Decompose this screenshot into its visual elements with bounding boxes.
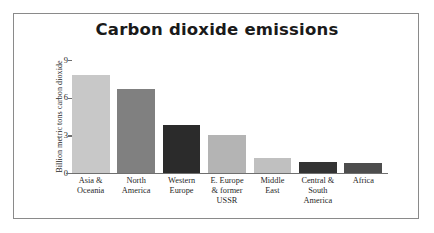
x-tick-label: E. Europe& formerUSSR	[204, 176, 249, 207]
x-tick-label-line: America	[295, 196, 340, 206]
bar-africa[interactable]	[344, 163, 382, 173]
bar-e-europe-former-ussr[interactable]	[208, 135, 246, 173]
bar-asia-oceania[interactable]	[72, 75, 110, 173]
x-tick-label-line: Asia &	[68, 176, 113, 186]
x-tick-label-line: E. Europe	[204, 176, 249, 186]
x-tick-label: Asia &Oceania	[68, 176, 113, 196]
bar-north-america[interactable]	[117, 89, 155, 173]
chart-figure: Carbon dioxide emissions Billion metric …	[0, 0, 434, 233]
x-tick-label-line: Central &	[295, 176, 340, 186]
x-tick-label: Africa	[341, 176, 386, 186]
x-tick-label-line: & former	[204, 186, 249, 196]
x-tick-label: MiddleEast	[250, 176, 295, 196]
bar-western-europe[interactable]	[163, 125, 201, 173]
bar-central-south-america[interactable]	[299, 162, 337, 173]
x-tick-label: Central &SouthAmerica	[295, 176, 340, 207]
bars-container	[0, 0, 434, 173]
x-tick-label-line: Oceania	[68, 186, 113, 196]
x-tick-label: WesternEurope	[159, 176, 204, 196]
x-tick-label-line: America	[113, 186, 158, 196]
x-tick-label-line: Africa	[341, 176, 386, 186]
x-tick-label-line: North	[113, 176, 158, 186]
x-tick-label: NorthAmerica	[113, 176, 158, 196]
x-tick-label-line: South	[295, 186, 340, 196]
x-tick-label-line: USSR	[204, 196, 249, 206]
x-tick-label-line: Western	[159, 176, 204, 186]
x-tick-label-line: East	[250, 186, 295, 196]
x-tick-label-line: Middle	[250, 176, 295, 186]
bar-middle-east[interactable]	[254, 158, 292, 173]
x-tick-label-line: Europe	[159, 186, 204, 196]
